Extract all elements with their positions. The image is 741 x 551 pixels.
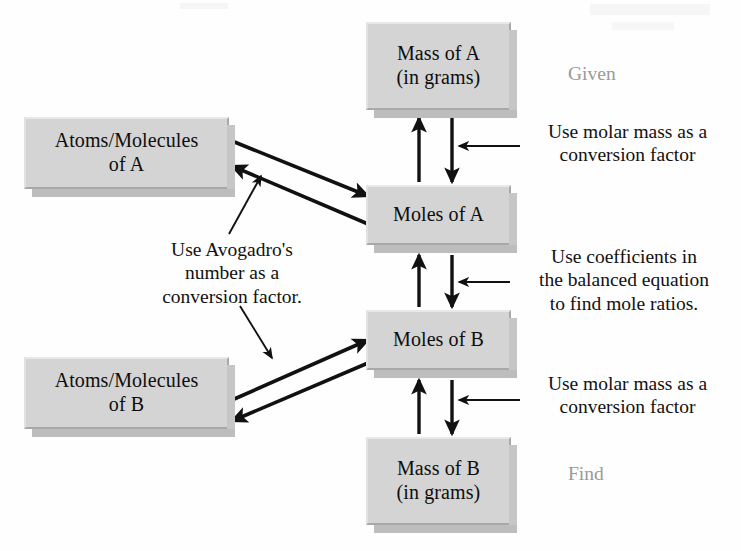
node-atoms-molecules-of-a[interactable]: Atoms/Molecules of A bbox=[24, 117, 229, 189]
node-moles-of-a-label: Moles of A bbox=[387, 203, 490, 227]
node-moles-of-a[interactable]: Moles of A bbox=[366, 185, 511, 245]
node-moles-of-b-label: Moles of B bbox=[387, 328, 490, 352]
node-mass-of-a-label: Mass of A (in grams) bbox=[391, 42, 487, 89]
node-moles-of-b[interactable]: Moles of B bbox=[366, 310, 511, 370]
node-mass-of-a[interactable]: Mass of A (in grams) bbox=[366, 22, 511, 110]
edge-atoms-a-to-moles-a bbox=[232, 141, 368, 224]
edge-mass-a-to-moles-a bbox=[419, 118, 452, 182]
edge-moles-b-to-mass-b bbox=[419, 380, 452, 434]
node-mass-of-b[interactable]: Mass of B (in grams) bbox=[366, 437, 511, 525]
diagram-canvas: Mass of A (in grams) Moles of A Moles of… bbox=[0, 0, 741, 551]
annotation-avogadro: Use Avogadro's number as a conversion fa… bbox=[124, 238, 340, 308]
node-atoms-molecules-of-b-label: Atoms/Molecules of B bbox=[49, 369, 205, 416]
annotation-coefficients: Use coefficients in the balanced equatio… bbox=[510, 245, 738, 315]
node-mass-of-b-label: Mass of B (in grams) bbox=[391, 457, 487, 504]
edge-moles-a-to-moles-b bbox=[419, 255, 452, 307]
annotation-molar-mass-bottom: Use molar mass as a conversion factor bbox=[520, 372, 735, 419]
label-given: Given bbox=[568, 62, 616, 85]
node-atoms-molecules-of-b[interactable]: Atoms/Molecules of B bbox=[24, 357, 229, 429]
annotation-molar-mass-top: Use molar mass as a conversion factor bbox=[520, 120, 735, 167]
node-atoms-molecules-of-a-label: Atoms/Molecules of A bbox=[49, 129, 205, 176]
pointer-avogadro-down bbox=[240, 306, 272, 358]
edge-atoms-b-to-moles-b bbox=[232, 340, 368, 421]
label-find: Find bbox=[568, 462, 604, 485]
